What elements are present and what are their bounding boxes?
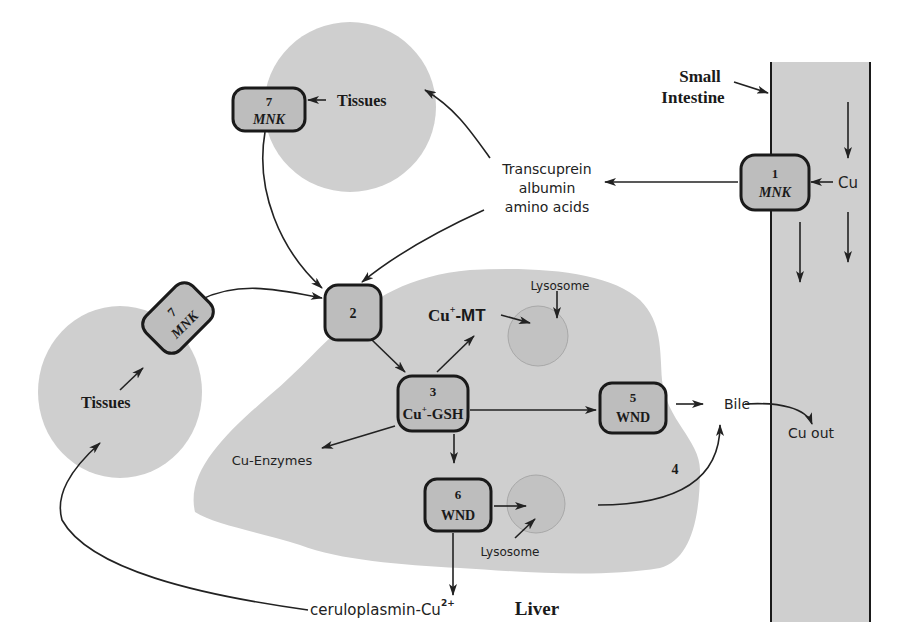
transport-label-line3: amino acids xyxy=(505,199,589,215)
box-number: 6 xyxy=(455,487,462,502)
mnk-box-tissues-top[interactable]: 7 MNK xyxy=(233,88,305,131)
intestine-pointer-arrow xyxy=(734,82,768,93)
cu-gsh-box[interactable]: 3 Cu+-GSH xyxy=(398,376,468,431)
copper-metabolism-diagram: 7 MNK 1 MNK 7 MNK 2 3 Cu+-GSH 5 WND 6 WN… xyxy=(0,0,904,640)
box-name: MNK xyxy=(252,112,287,127)
bile-label: Bile xyxy=(724,396,750,412)
box-number: 3 xyxy=(430,384,437,399)
wnd-box-bile[interactable]: 5 WND xyxy=(600,383,666,433)
lysosome-top-label: Lysosome xyxy=(531,279,590,293)
box-number: 5 xyxy=(630,390,637,405)
mnk-left-to-box2-arrow xyxy=(200,288,322,300)
transport-label-line1: Transcuprein xyxy=(501,161,591,177)
box-name: WND xyxy=(616,410,650,425)
box-number: 1 xyxy=(772,166,779,181)
lysosome-bottom xyxy=(507,475,565,533)
lysosome-bottom-label: Lysosome xyxy=(481,545,540,559)
small-intestine-label-line1: Small xyxy=(679,67,721,86)
cu-input-label: Cu xyxy=(838,174,858,192)
liver-label: Liver xyxy=(515,598,560,619)
box-name: MNK xyxy=(758,185,793,200)
box-number: 2 xyxy=(350,306,357,321)
cu-enzymes-label: Cu-Enzymes xyxy=(232,453,313,468)
transport-label-line2: albumin xyxy=(519,180,576,196)
small-intestine-label-line2: Intestine xyxy=(661,88,725,107)
tissues-left-label: Tissues xyxy=(81,394,131,411)
wnd-box-lysosome[interactable]: 6 WND xyxy=(425,479,491,531)
mnk-box-intestine[interactable]: 1 MNK xyxy=(741,155,809,210)
tissues-top-label: Tissues xyxy=(337,92,387,109)
box-name: Cu+-GSH xyxy=(402,404,463,422)
cu-mt-label: Cu+-MT xyxy=(428,304,486,325)
small-intestine-region xyxy=(771,62,870,622)
box-2[interactable]: 2 xyxy=(325,285,381,340)
cu-out-label: Cu out xyxy=(788,425,835,441)
box-name: WND xyxy=(441,508,475,523)
pathway-4-label: 4 xyxy=(672,462,679,477)
lysosome-top xyxy=(508,306,568,366)
ceruloplasmin-label: ceruloplasmin-Cu2+ xyxy=(310,598,455,619)
box-number: 7 xyxy=(266,94,273,109)
